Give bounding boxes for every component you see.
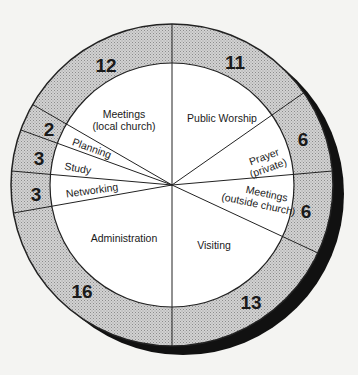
value-public-worship: 11 xyxy=(225,52,246,73)
pie-chart: Public Worship Prayer (private) Meetings… xyxy=(0,0,358,375)
value-study: 3 xyxy=(34,148,45,169)
svg-text:Meetings: Meetings xyxy=(103,108,146,120)
svg-text:(local church): (local church) xyxy=(92,120,155,132)
value-visiting: 13 xyxy=(240,292,261,313)
label-public-worship: Public Worship xyxy=(187,112,257,124)
value-prayer: 6 xyxy=(298,129,309,150)
value-administration: 16 xyxy=(71,281,92,302)
value-meetings-local: 12 xyxy=(95,55,116,76)
value-networking: 3 xyxy=(31,184,42,205)
value-planning: 2 xyxy=(44,119,55,140)
value-meetings-outside: 6 xyxy=(301,201,312,222)
label-visiting: Visiting xyxy=(197,239,231,251)
label-administration: Administration xyxy=(91,232,158,244)
